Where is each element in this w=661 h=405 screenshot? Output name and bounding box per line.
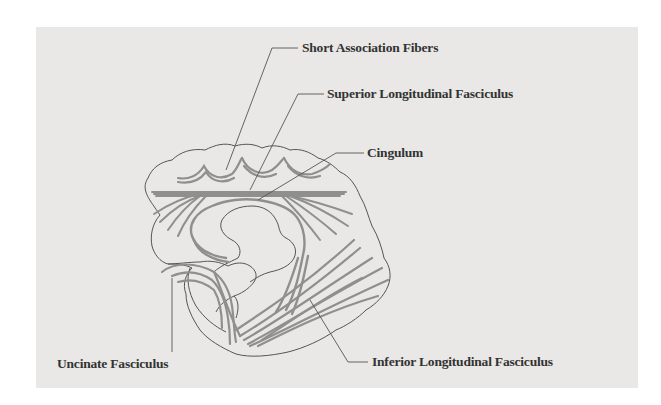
- label-short-association-fibers: Short Association Fibers: [302, 41, 438, 55]
- inferior-longitudinal-fasciculus: [236, 240, 388, 346]
- label-cingulum: Cingulum: [367, 146, 423, 160]
- brain-diagram: [0, 0, 661, 405]
- label-uncinate-fasciculus: Uncinate Fasciculus: [57, 357, 168, 371]
- leader-short-association-fibers: [226, 48, 298, 170]
- uncinate-fasciculus: [162, 265, 240, 345]
- label-superior-longitudinal-fasciculus: Superior Longitudinal Fasciculus: [327, 87, 513, 101]
- cingulum: [191, 199, 308, 314]
- label-inferior-longitudinal-fasciculus: Inferior Longitudinal Fasciculus: [372, 355, 553, 369]
